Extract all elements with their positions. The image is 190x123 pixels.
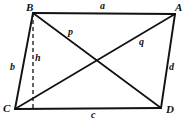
vertex-label-A: A (175, 2, 182, 13)
altitude-label-h: h (35, 53, 41, 63)
side-c-line (15, 108, 161, 109)
vertex-label-B: B (26, 2, 33, 13)
side-label-c: c (91, 110, 95, 120)
geometry-figure: B A C D a b c d p q h (0, 0, 190, 123)
vertex-label-C: C (3, 103, 10, 114)
side-label-a: a (100, 1, 105, 11)
diagonal-label-q: q (139, 37, 144, 47)
diagonal-label-p: p (68, 27, 73, 37)
vertex-label-D: D (166, 104, 174, 115)
side-label-b: b (10, 62, 15, 72)
parallelogram-drawing (0, 0, 190, 123)
side-label-d: d (169, 62, 174, 72)
side-b-line (15, 13, 33, 109)
side-a-line (33, 13, 175, 14)
